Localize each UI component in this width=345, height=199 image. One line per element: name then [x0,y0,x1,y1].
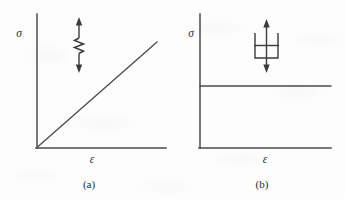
panel-b-y-axis-label: σ [188,27,195,39]
panel-a: σ ε (a) [16,14,166,191]
panel-b-x-axis-label: ε [263,153,268,165]
figure-container: σ ε (a) [0,0,345,199]
panel-b: σ ε (b) [188,14,331,191]
dashpot-icon [254,19,279,73]
figure-canvas: σ ε (a) [0,0,345,199]
panel-a-y-axis-label: σ [16,27,23,39]
panel-a-caption: (a) [83,178,96,191]
spring-icon [75,17,84,73]
panel-b-caption: (b) [256,178,269,191]
panel-a-elastic-line [38,42,158,147]
panel-a-x-axis-label: ε [90,153,95,165]
